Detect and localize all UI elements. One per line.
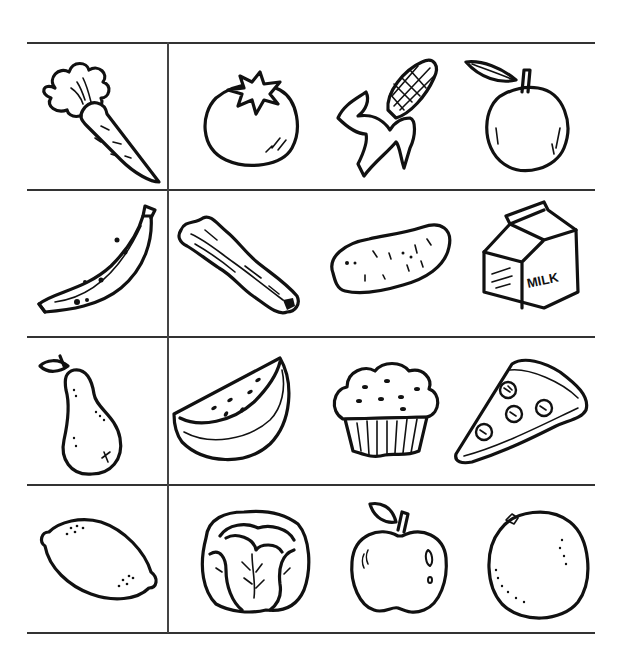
apple-icon <box>340 494 480 634</box>
muffin-icon <box>325 355 465 495</box>
grid-divider-vertical <box>167 42 169 633</box>
bacon-icon <box>175 200 315 340</box>
banana-icon <box>25 196 165 336</box>
cabbage-icon <box>186 498 326 638</box>
pizza-slice-icon <box>452 352 592 492</box>
lemon-icon <box>27 502 167 642</box>
milk-carton-icon: MILK <box>470 196 610 336</box>
peach-icon <box>460 48 600 188</box>
tomato-icon <box>186 48 326 188</box>
carrot-icon <box>25 48 165 188</box>
grid-rule-row-1 <box>27 189 595 191</box>
food-worksheet: MILK <box>0 0 625 662</box>
corn-icon <box>330 48 470 188</box>
watermelon-slice-icon <box>170 352 310 492</box>
grid-rule-top <box>27 42 595 44</box>
pear-icon <box>30 350 170 490</box>
orange-icon <box>478 500 618 640</box>
potato-icon <box>325 205 465 345</box>
